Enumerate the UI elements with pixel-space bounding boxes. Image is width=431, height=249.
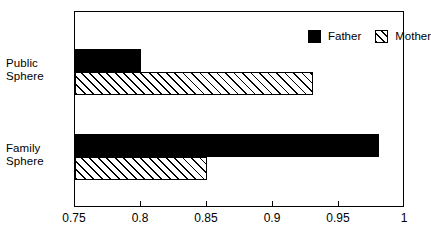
legend-label-mother: Mother — [395, 30, 431, 43]
legend-item-mother: Mother — [375, 30, 431, 43]
y-axis-label-family-sphere-line1: Family — [6, 142, 72, 155]
y-axis-label-public-sphere: Public Sphere — [6, 57, 72, 83]
x-axis-tick-mark — [74, 201, 75, 206]
x-axis-tick-label: 0.75 — [62, 211, 85, 225]
solid-square-swatch-icon — [308, 30, 321, 43]
x-axis-tick-label: 0.95 — [326, 211, 349, 225]
bar-family-sphere-mother — [75, 157, 207, 180]
bar-family-sphere-father — [75, 134, 379, 157]
y-axis-label-family-sphere-line2: Sphere — [6, 155, 72, 168]
x-axis-tick-mark — [403, 201, 404, 206]
x-axis-tick-mark — [206, 201, 207, 206]
x-axis-tick-mark — [140, 201, 141, 206]
x-axis-tick-label: 1 — [401, 211, 408, 225]
y-axis-label-family-sphere: Family Sphere — [6, 142, 72, 168]
x-axis-tick-mark — [272, 201, 273, 206]
x-axis-tick-label: 0.85 — [194, 211, 217, 225]
legend-label-father: Father — [328, 30, 361, 43]
bar-public-sphere-father — [75, 49, 141, 72]
bar-public-sphere-mother — [75, 72, 313, 95]
y-axis-label-public-sphere-line2: Sphere — [6, 70, 72, 83]
plot-area: Father Mother — [74, 11, 404, 207]
legend-item-father: Father — [308, 30, 361, 43]
hatched-square-swatch-icon — [375, 30, 388, 43]
legend: Father Mother — [308, 30, 431, 43]
y-axis-label-public-sphere-line1: Public — [6, 57, 72, 70]
x-axis-tick-label: 0.9 — [264, 211, 281, 225]
x-axis-tick-label: 0.8 — [132, 211, 149, 225]
x-axis-tick-mark — [338, 201, 339, 206]
